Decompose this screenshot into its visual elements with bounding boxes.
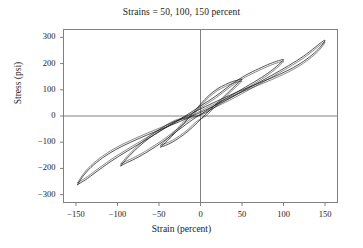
y-tick-label: 300 (26, 31, 56, 41)
x-tick-label: −50 (142, 209, 176, 219)
x-tick-label: 150 (308, 209, 342, 219)
x-tick-label: 50 (225, 209, 259, 219)
y-tick-label: −300 (26, 189, 56, 199)
x-tick-label: 0 (184, 209, 218, 219)
stress-strain-hysteresis-figure: Strains = 50, 100, 150 percent Stress (p… (0, 0, 363, 248)
hysteresis-loop-100 (121, 59, 284, 165)
x-tick-label: −100 (100, 209, 134, 219)
zero-axis-lines (64, 30, 338, 203)
hysteresis-curves (78, 40, 325, 184)
y-tick-label: 100 (26, 84, 56, 94)
y-tick-label: 200 (26, 58, 56, 68)
y-tick-label: 0 (26, 110, 56, 120)
x-tick-label: 100 (267, 209, 301, 219)
hysteresis-loop-150 (78, 40, 325, 184)
hysteresis-loop-50 (161, 79, 242, 147)
y-tick-label: −200 (26, 162, 56, 172)
x-tick-label: −150 (59, 209, 93, 219)
y-tick-label: −100 (26, 136, 56, 146)
axis-ticks (60, 37, 325, 206)
